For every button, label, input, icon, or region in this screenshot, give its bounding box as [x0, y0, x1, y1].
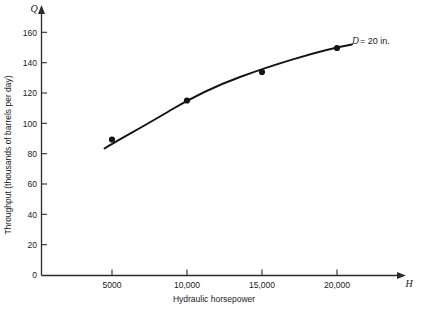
x-axis-ticks: [112, 270, 337, 276]
y-axis: [38, 5, 45, 276]
chart-figure: 160 140 120 100 80 60 40 20 0 5000 10,00…: [0, 0, 422, 314]
y-axis-arrow-icon: [38, 5, 45, 14]
y-tick-label-140: 140: [23, 58, 37, 68]
data-point-marker: [259, 69, 265, 75]
y-tick-label-160: 160: [23, 28, 37, 38]
x-axis: [42, 272, 407, 279]
data-point-marker: [109, 136, 115, 142]
series-label-symbol: D: [351, 36, 359, 46]
y-tick-label-0: 0: [32, 270, 37, 280]
x-tick-label-15000: 15,000: [249, 280, 275, 290]
y-tick-label-80: 80: [28, 149, 38, 159]
y-axis-ticks: [42, 32, 48, 244]
x-tick-label-5000: 5000: [103, 280, 122, 290]
chart-plot-area: 160 140 120 100 80 60 40 20 0 5000 10,00…: [0, 0, 422, 314]
y-axis-title: Throughput (thousands of barrels per day…: [3, 75, 13, 234]
data-series-line: [105, 45, 353, 149]
y-tick-label-20: 20: [28, 240, 38, 250]
y-axis-tick-labels: 160 140 120 100 80 60 40 20 0: [23, 28, 37, 281]
series-label-text: = 20 in.: [360, 36, 390, 46]
x-axis-tick-labels: 5000 10,000 15,000 20,000: [103, 280, 351, 290]
y-tick-label-40: 40: [28, 210, 38, 220]
y-tick-label-100: 100: [23, 119, 37, 129]
y-axis-symbol-label: Q: [30, 3, 38, 14]
y-tick-label-120: 120: [23, 88, 37, 98]
x-tick-label-10000: 10,000: [174, 280, 200, 290]
data-point-marker: [184, 97, 190, 103]
data-point-marker: [334, 45, 340, 51]
x-axis-title: Hydraulic horsepower: [173, 294, 255, 304]
x-axis-symbol-label: H: [404, 278, 413, 289]
series-annotation: D = 20 in.: [351, 36, 390, 46]
data-point-markers: [109, 45, 340, 143]
x-tick-label-20000: 20,000: [324, 280, 350, 290]
y-tick-label-60: 60: [28, 179, 38, 189]
